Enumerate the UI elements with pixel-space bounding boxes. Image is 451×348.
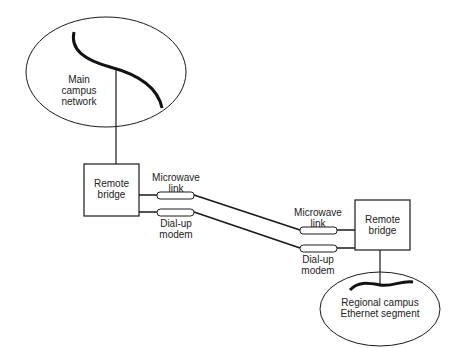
left-dialup-label: Dial-up modem	[150, 218, 202, 240]
dialup-link-line	[194, 212, 300, 248]
regional-ethernet-segment	[350, 282, 413, 290]
left-dialup-device	[157, 209, 194, 216]
right-dialup-label: Dial-up modem	[292, 254, 344, 276]
right-dialup-device	[300, 245, 337, 252]
left-remote-bridge-label: Remote bridge	[84, 178, 139, 200]
microwave-link-line	[194, 195, 300, 230]
left-microwave-label: Microwave link	[150, 172, 202, 194]
right-remote-bridge-label: Remote bridge	[355, 214, 410, 236]
regional-campus-label: Regional campus Ethernet segment	[330, 297, 430, 319]
right-microwave-label: Microwave link	[292, 207, 344, 229]
network-diagram	[0, 0, 451, 348]
main-campus-network-ellipse	[26, 17, 186, 127]
main-campus-network-label: Main campus network	[52, 74, 106, 107]
